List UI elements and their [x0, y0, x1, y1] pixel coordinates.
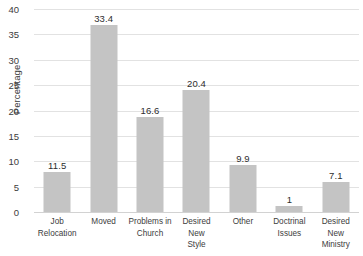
- y-axis-tick-label: 35: [0, 29, 19, 40]
- bar-value-label: 9.9: [236, 153, 250, 164]
- x-axis-category-label: Doctrinal Issues: [266, 216, 312, 239]
- bar-slot: 1: [266, 9, 312, 213]
- plot-area: 4035302520151050 11.533.416.620.49.917.1: [34, 9, 359, 213]
- bar-value-label: 16.6: [141, 105, 160, 116]
- bar[interactable]: [229, 165, 256, 212]
- y-axis-tick-label: 40: [0, 4, 19, 15]
- x-axis-category-label: Moved: [80, 216, 126, 228]
- bar-slot: 9.9: [220, 9, 266, 213]
- x-axis-category-label: Job Relocation: [34, 216, 80, 239]
- bar-slot: 16.6: [127, 9, 173, 213]
- bar-value-label: 11.5: [48, 160, 66, 171]
- bar-value-label: 20.4: [187, 78, 206, 89]
- y-axis-tick-label: 10: [0, 156, 19, 167]
- bar[interactable]: [183, 90, 210, 212]
- bar-slot: 20.4: [173, 9, 219, 213]
- x-axis-category-label: Other: [220, 216, 266, 228]
- bar[interactable]: [137, 117, 164, 212]
- bar[interactable]: [322, 182, 349, 212]
- bar-chart: Percentage 4035302520151050 11.533.416.6…: [0, 0, 363, 256]
- x-axis-labels: Job RelocationMovedProblems in ChurchDes…: [34, 216, 359, 256]
- bar-value-label: 7.1: [329, 170, 343, 181]
- x-axis-category-label: Problems in Church: [127, 216, 173, 239]
- x-axis-category-label: Desired New Ministry: [313, 216, 359, 251]
- bar-slot: 33.4: [80, 9, 126, 213]
- bar-slot: 7.1: [313, 9, 359, 213]
- bar-value-label: 1: [287, 194, 292, 205]
- bar[interactable]: [44, 172, 71, 212]
- y-axis-tick-label: 25: [0, 80, 19, 91]
- bar[interactable]: [276, 206, 303, 212]
- bars-group: 11.533.416.620.49.917.1: [34, 9, 359, 213]
- y-axis-tick-label: 5: [0, 181, 19, 192]
- bar-slot: 11.5: [34, 9, 80, 213]
- bar[interactable]: [90, 25, 117, 212]
- y-axis-tick-label: 30: [0, 54, 19, 65]
- y-axis-tick-label: 20: [0, 105, 19, 116]
- x-axis-category-label: Desired New Style: [173, 216, 219, 251]
- y-axis-tick-label: 15: [0, 131, 19, 142]
- y-axis-tick-label: 0: [0, 207, 19, 218]
- bar-value-label: 33.4: [94, 13, 113, 24]
